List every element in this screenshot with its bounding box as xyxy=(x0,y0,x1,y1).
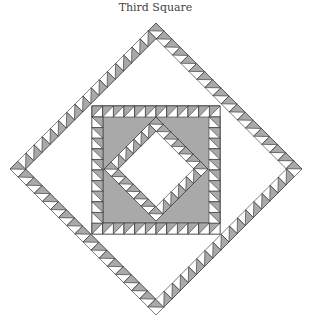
quilt-block-diagram xyxy=(0,0,311,331)
